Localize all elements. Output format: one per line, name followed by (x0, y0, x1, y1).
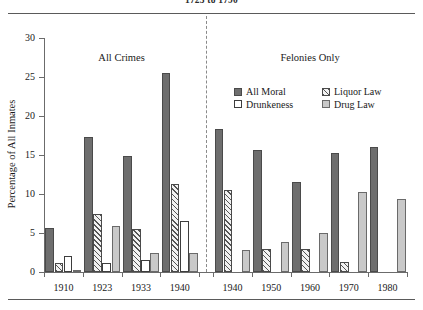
bar-chart-figure: 1725 to 1790 Percentage of All Inmates 0… (0, 0, 423, 310)
x-tick (213, 272, 214, 277)
y-tick (39, 38, 44, 39)
x-tick-label: 1940 (223, 282, 243, 293)
bar-drug-law (73, 270, 82, 272)
hatched-swatch-icon (322, 88, 330, 96)
legend-label: All Moral (246, 86, 286, 98)
bar-drug-law (242, 250, 251, 272)
panel-title-all-crimes: All Crimes (98, 52, 144, 63)
x-tick-label: 1923 (92, 282, 112, 293)
bar-liquor-law (55, 263, 64, 272)
bar-drug-law (397, 199, 406, 272)
bar-drug-law (112, 226, 121, 272)
legend-label: Liquor Law (334, 86, 382, 98)
bar-all-moral (253, 150, 262, 272)
bar-all-moral (215, 129, 224, 272)
bar-drug-law (358, 192, 367, 272)
figure-caption-strip: 1725 to 1790 (0, 0, 423, 11)
x-tick-label: 1910 (53, 282, 73, 293)
bar-liquor-law (340, 262, 349, 272)
x-axis (44, 272, 407, 273)
x-tick (44, 272, 45, 277)
bar-drunkeness (180, 221, 189, 272)
x-tick-label: 1940 (170, 282, 190, 293)
y-tick-label: 5 (15, 228, 35, 238)
y-tick-label: 0 (15, 267, 35, 277)
bar-all-moral (123, 156, 132, 272)
y-tick-label: 25 (15, 72, 35, 82)
legend: All Moral Liquor Law Drunkeness Drug Law (234, 86, 409, 111)
y-tick (39, 155, 44, 156)
y-tick (39, 116, 44, 117)
legend-item-drug-law: Drug Law (322, 99, 375, 111)
bar-liquor-law (301, 249, 310, 272)
legend-label: Drug Law (334, 99, 375, 111)
legend-item-drunkeness: Drunkeness (234, 99, 322, 111)
plot-area: 051015202530 191019231933194019401950196… (44, 38, 407, 272)
bar-drug-law (281, 242, 290, 272)
open-white-swatch-icon (234, 100, 242, 108)
bottom-rule (8, 299, 415, 300)
legend-label: Drunkeness (246, 99, 293, 111)
x-tick-label: 1980 (378, 282, 398, 293)
bar-liquor-law (132, 229, 141, 272)
x-tick (368, 272, 369, 277)
legend-row: Drunkeness Drug Law (234, 99, 409, 111)
x-tick (199, 272, 200, 277)
x-tick-label: 1950 (261, 282, 281, 293)
figure-caption: 1725 to 1790 (0, 0, 423, 5)
y-tick-label: 20 (15, 111, 35, 121)
y-tick-label: 15 (15, 150, 35, 160)
bar-all-moral (370, 147, 379, 272)
bar-drunkeness (141, 260, 150, 272)
bar-all-moral (331, 153, 340, 272)
legend-item-liquor-law: Liquor Law (322, 86, 382, 98)
bar-all-moral (162, 73, 171, 272)
x-tick (122, 272, 123, 277)
legend-row: All Moral Liquor Law (234, 86, 409, 98)
x-tick-label: 1960 (300, 282, 320, 293)
bar-all-moral (45, 228, 54, 272)
x-tick (83, 272, 84, 277)
light-gray-swatch-icon (322, 100, 330, 108)
x-tick (291, 272, 292, 277)
x-tick (407, 272, 408, 277)
top-rule (8, 13, 415, 14)
panel-divider (206, 16, 207, 272)
x-tick-label: 1970 (339, 282, 359, 293)
bar-liquor-law (262, 249, 271, 272)
bar-drunkeness (64, 256, 73, 272)
bar-drunkeness (102, 263, 111, 272)
bar-all-moral (292, 182, 301, 272)
bar-drug-law (319, 233, 328, 272)
y-tick (39, 233, 44, 234)
bar-drug-law (189, 253, 198, 273)
legend-item-all-moral: All Moral (234, 86, 322, 98)
bar-drug-law (150, 253, 159, 273)
solid-dark-swatch-icon (234, 88, 242, 96)
x-tick (329, 272, 330, 277)
bar-liquor-law (224, 190, 233, 272)
x-tick-label: 1933 (131, 282, 151, 293)
y-tick (39, 77, 44, 78)
y-tick (39, 194, 44, 195)
y-tick-label: 10 (15, 189, 35, 199)
panel-title-felonies-only: Felonies Only (280, 52, 339, 63)
bar-liquor-law (171, 184, 180, 272)
y-tick-label: 30 (15, 33, 35, 43)
x-tick (160, 272, 161, 277)
bar-liquor-law (93, 214, 102, 272)
bar-all-moral (84, 137, 93, 272)
x-tick (252, 272, 253, 277)
